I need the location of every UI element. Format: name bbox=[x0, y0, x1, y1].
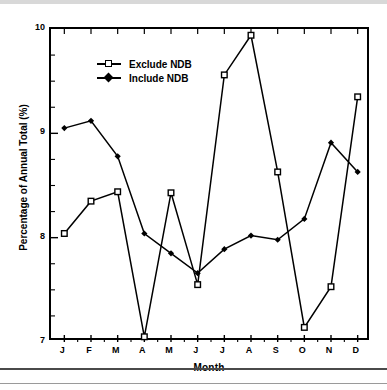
legend-label-exclude-ndb: Exclude NDB bbox=[129, 59, 192, 70]
x-axis-tick-label: A bbox=[139, 345, 146, 355]
data-point-open-square bbox=[355, 94, 361, 100]
series-line bbox=[64, 121, 357, 273]
figure: 78910 Percentage of Annual Total (%) Exc… bbox=[0, 0, 387, 390]
legend: Exclude NDB Include NDB bbox=[96, 57, 192, 85]
scan-top-band bbox=[0, 0, 387, 4]
x-axis-tick-label: J bbox=[193, 345, 198, 355]
legend-label-include-ndb: Include NDB bbox=[129, 73, 188, 84]
y-axis-tick-label: 7 bbox=[40, 335, 45, 345]
data-point-open-square bbox=[222, 72, 228, 78]
x-axis-tick-label: D bbox=[352, 345, 359, 355]
x-axis-tick-label: M bbox=[112, 345, 120, 355]
data-point-open-square bbox=[328, 284, 334, 290]
y-axis-tick-label: 9 bbox=[40, 126, 45, 136]
data-point-open-square bbox=[142, 334, 148, 340]
data-point-open-square bbox=[62, 231, 68, 237]
data-point-open-square bbox=[302, 325, 308, 331]
data-point-open-square bbox=[248, 32, 254, 38]
data-point-open-square bbox=[88, 198, 94, 204]
x-axis-tick-labels: JFMAMJJASOND bbox=[0, 345, 387, 359]
open-square-marker-icon bbox=[96, 57, 122, 71]
data-point-open-square bbox=[115, 189, 121, 195]
x-axis-tick-label: J bbox=[60, 345, 65, 355]
series-include-ndb bbox=[61, 118, 361, 277]
x-axis-tick-label: J bbox=[220, 345, 225, 355]
y-axis-tick-label: 8 bbox=[40, 231, 45, 241]
filled-diamond-marker-icon bbox=[96, 71, 122, 85]
data-point-filled-diamond bbox=[61, 125, 67, 131]
x-axis-tick-label: F bbox=[86, 345, 92, 355]
data-point-open-square bbox=[168, 190, 174, 196]
data-point-open-square bbox=[195, 282, 201, 288]
scan-rule-primary bbox=[0, 368, 387, 370]
y-axis-title: Percentage of Annual Total (%) bbox=[18, 78, 29, 278]
legend-item-include-ndb[interactable]: Include NDB bbox=[96, 71, 192, 85]
x-axis-tick-label: S bbox=[273, 345, 279, 355]
x-axis-tick-label: N bbox=[326, 345, 333, 355]
legend-item-exclude-ndb[interactable]: Exclude NDB bbox=[96, 57, 192, 71]
data-point-open-square bbox=[275, 169, 281, 175]
x-axis-tick-label: A bbox=[246, 345, 253, 355]
data-point-filled-diamond bbox=[248, 232, 254, 238]
x-axis-tick-label: M bbox=[165, 345, 173, 355]
y-axis-tick-label: 10 bbox=[35, 22, 45, 32]
x-axis-tick-label: O bbox=[299, 345, 306, 355]
scan-rule-secondary bbox=[0, 383, 387, 384]
